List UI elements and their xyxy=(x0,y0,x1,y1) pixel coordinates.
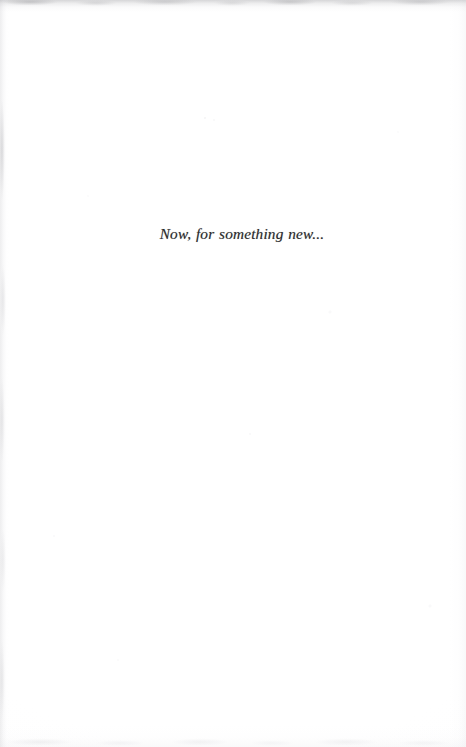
epigraph-block: Now, for something new... xyxy=(0,224,466,244)
scan-artifact-top-edge xyxy=(0,0,466,12)
scan-artifact-top-mottle xyxy=(0,0,466,9)
scan-artifact-bottom-edge xyxy=(0,725,466,747)
paper-tone-overlay xyxy=(0,0,466,747)
scan-artifact-left-mottle xyxy=(0,0,7,747)
scanned-page: Now, for something new... xyxy=(0,0,466,747)
scan-artifact-left-gutter xyxy=(0,0,9,747)
scan-artifact-speckles xyxy=(0,0,466,747)
scan-artifact-right-edge xyxy=(450,0,466,747)
epigraph-text: Now, for something new... xyxy=(160,224,325,244)
